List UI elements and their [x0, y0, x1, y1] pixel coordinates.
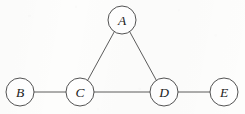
node-group: A B C D E — [6, 6, 238, 106]
node-c-label: C — [75, 85, 85, 100]
node-d[interactable]: D — [150, 78, 178, 106]
node-e[interactable]: E — [210, 78, 238, 106]
node-d-label: D — [158, 85, 169, 100]
node-b[interactable]: B — [6, 78, 34, 106]
graph-diagram: A B C D E — [0, 0, 245, 114]
edge-group — [34, 32, 210, 92]
node-e-label: E — [219, 85, 229, 100]
node-a-label: A — [117, 13, 127, 28]
graph-canvas: A B C D E — [0, 0, 245, 114]
node-c[interactable]: C — [66, 78, 94, 106]
node-b-label: B — [16, 85, 24, 100]
edge-a-c — [88, 32, 115, 81]
edge-a-d — [130, 32, 157, 81]
node-a[interactable]: A — [108, 6, 136, 34]
